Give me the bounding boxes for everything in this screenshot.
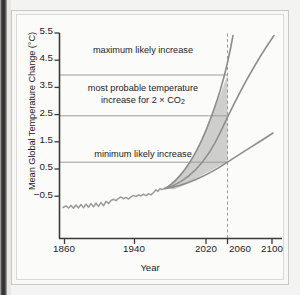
x-axis-ticks: [65, 239, 273, 245]
chart-canvas: [11, 10, 289, 285]
scan-edge: [0, 0, 7, 295]
series-observed: [63, 189, 165, 209]
figure-page: Mean Global Temperature Change (°C) Year…: [0, 0, 300, 295]
temperature-change-chart: Mean Global Temperature Change (°C) Year…: [11, 10, 289, 285]
likely-range-band: [165, 75, 228, 189]
